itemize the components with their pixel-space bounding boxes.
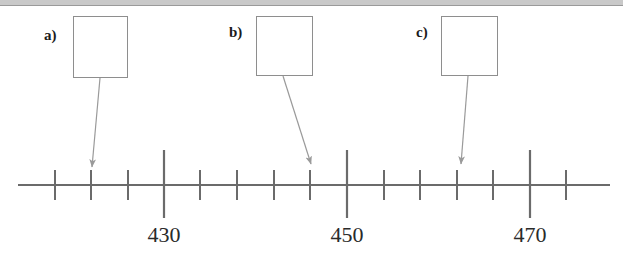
callout-arrows-group [92,76,468,167]
answer-box-b[interactable] [256,16,313,76]
callout-letter-a: a) [44,28,57,43]
answer-box-c[interactable] [441,16,498,76]
axis-tick-label: 470 [514,224,547,246]
callout-letter-b: b) [229,25,242,40]
figure-page: a)b)c) 430450470 [0,0,623,268]
callout-arrow-a [92,78,100,167]
answer-box-a[interactable] [73,16,128,78]
callout-letter-c: c) [416,25,428,40]
axis-tick-label: 430 [148,224,181,246]
axis-tick-label: 450 [331,224,364,246]
callout-arrow-b [283,76,311,164]
callout-arrow-c [461,76,468,164]
